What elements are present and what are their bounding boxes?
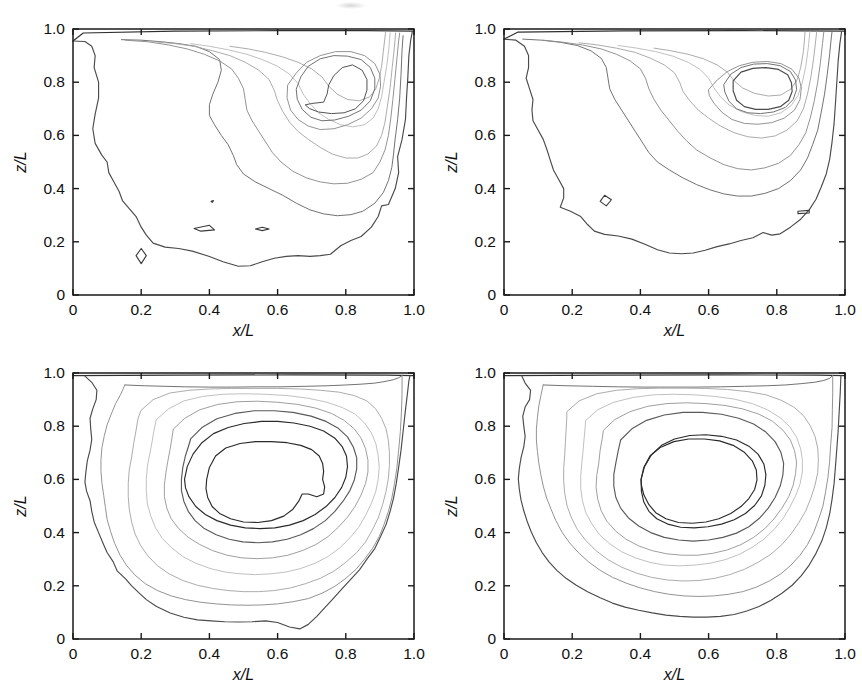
plot-box [73, 29, 414, 295]
y-tick-label: 1.0 [43, 364, 65, 381]
x-tick-label: 0.4 [630, 645, 652, 662]
x-tick-label: 0 [69, 645, 78, 662]
contour-path-level-9 [641, 439, 757, 523]
x-tick-label: 0.8 [766, 301, 788, 318]
y-tick-label: 0.8 [474, 73, 496, 90]
axes-top-left: 00.20.40.60.81.000.20.40.60.81.0x/Lz/L [12, 20, 425, 339]
y-tick-label: 0.8 [43, 73, 65, 90]
x-tick-label: 0.8 [766, 645, 788, 662]
contour-path-level-4 [543, 32, 824, 170]
panel-bottom-right-svg: 00.20.40.60.81.000.20.40.60.81.0x/Lz/L [431, 344, 862, 689]
x-tick-label: 1.0 [834, 645, 856, 662]
contour-path-level-1 [73, 375, 414, 376]
x-axis-title: x/L [232, 322, 254, 339]
x-tick-label: 0.4 [199, 301, 221, 318]
y-tick-label: 0.4 [43, 180, 65, 197]
y-tick-label: 0.4 [474, 180, 496, 197]
contour-lines-top-left [73, 31, 414, 267]
contour-path-level-9 [296, 56, 374, 121]
x-tick-label: 0.4 [630, 301, 652, 318]
contour-path-level-8 [709, 61, 802, 124]
contour-path-level-3 [523, 32, 832, 196]
x-tick-label: 0.6 [267, 645, 289, 662]
y-tick-label: 0.8 [43, 417, 65, 434]
contour-path-level-3 [125, 376, 402, 387]
y-tick-label: 0 [56, 286, 65, 303]
y-tick-label: 0.6 [474, 470, 496, 487]
contour-path-level-6 [191, 33, 390, 127]
contour-figure: 00.20.40.60.81.000.20.40.60.81.0x/Lz/L 0… [0, 0, 862, 689]
contour-path-level-2 [73, 32, 412, 267]
panel-bottom-left: 00.20.40.60.81.000.20.40.60.81.0x/Lz/L [0, 344, 431, 689]
contour-path-level-3 [543, 376, 832, 387]
y-tick-label: 0.2 [474, 233, 496, 250]
contour-path-speck-d [211, 201, 213, 203]
axes-bottom-left: 00.20.40.60.81.000.20.40.60.81.0x/Lz/L [12, 364, 425, 683]
y-axis-title: z/L [12, 495, 29, 517]
x-tick-label: 0.2 [561, 645, 583, 662]
contour-path-island-a [136, 248, 146, 263]
contour-path-level-5 [155, 33, 396, 158]
y-tick-label: 0.6 [43, 126, 65, 143]
x-tick-label: 0.4 [199, 645, 221, 662]
y-tick-label: 1.0 [474, 364, 496, 381]
y-tick-label: 0.8 [474, 417, 496, 434]
x-axis-title: x/L [232, 666, 254, 683]
y-tick-label: 0.2 [43, 233, 65, 250]
contour-path-level-6 [596, 403, 797, 555]
contour-path-level-8 [641, 435, 766, 528]
panel-bottom-left-svg: 00.20.40.60.81.000.20.40.60.81.0x/Lz/L [0, 344, 431, 689]
y-tick-label: 0.2 [474, 577, 496, 594]
x-tick-label: 0.6 [698, 301, 720, 318]
x-tick-label: 1.0 [834, 301, 856, 318]
x-axis-title: x/L [663, 666, 685, 683]
y-tick-label: 0 [487, 630, 496, 647]
x-tick-label: 0.8 [335, 645, 357, 662]
axes-top-right: 00.20.40.60.81.000.20.40.60.81.0x/Lz/L [443, 20, 856, 339]
y-tick-label: 0.6 [474, 126, 496, 143]
plot-box [504, 373, 845, 639]
contour-path-level-10 [306, 65, 367, 114]
contour-path-level-7 [614, 412, 784, 541]
contour-path-level-4 [125, 33, 400, 184]
contour-path-level-10 [733, 68, 792, 110]
contour-path-island-b [194, 225, 214, 231]
y-axis-title: z/L [443, 495, 460, 517]
x-tick-label: 0 [500, 301, 509, 318]
panel-top-right: 00.20.40.60.81.000.20.40.60.81.0x/Lz/L [431, 0, 862, 345]
plot-box [504, 29, 845, 295]
contour-path-level-6 [164, 401, 368, 558]
axes-bottom-right: 00.20.40.60.81.000.20.40.60.81.0x/Lz/L [443, 364, 856, 683]
panel-bottom-right: 00.20.40.60.81.000.20.40.60.81.0x/Lz/L [431, 344, 862, 689]
x-tick-label: 1.0 [403, 645, 425, 662]
x-tick-label: 1.0 [403, 301, 425, 318]
contour-path-island-c [255, 227, 269, 230]
x-tick-label: 0.2 [130, 301, 152, 318]
panel-top-right-svg: 00.20.40.60.81.000.20.40.60.81.0x/Lz/L [431, 0, 862, 345]
y-tick-label: 0.6 [43, 470, 65, 487]
contour-path-level-5 [579, 32, 817, 138]
x-axis-title: x/L [663, 322, 685, 339]
contour-lines-bottom-right [504, 375, 845, 617]
contour-path-level-9 [206, 442, 325, 523]
y-tick-label: 0.4 [474, 524, 496, 541]
y-tick-label: 0 [487, 286, 496, 303]
x-tick-label: 0 [500, 645, 509, 662]
x-tick-label: 0 [69, 301, 78, 318]
panel-top-left: 00.20.40.60.81.000.20.40.60.81.0x/Lz/L [0, 0, 431, 345]
contour-path-level-7 [654, 32, 805, 96]
contour-lines-bottom-left [73, 375, 414, 629]
y-tick-label: 0 [56, 630, 65, 647]
contour-lines-top-right [504, 31, 845, 254]
x-tick-label: 0.2 [130, 645, 152, 662]
x-tick-label: 0.8 [335, 301, 357, 318]
y-tick-label: 0.2 [43, 577, 65, 594]
contour-path-island-a [600, 195, 611, 206]
contour-path-level-1 [504, 375, 845, 376]
contour-path-level-9 [724, 64, 797, 114]
contour-path-level-2 [504, 32, 842, 254]
y-tick-label: 1.0 [43, 20, 65, 37]
panel-top-left-svg: 00.20.40.60.81.000.20.40.60.81.0x/Lz/L [0, 0, 431, 345]
plot-box [73, 373, 414, 639]
x-tick-label: 0.6 [698, 645, 720, 662]
